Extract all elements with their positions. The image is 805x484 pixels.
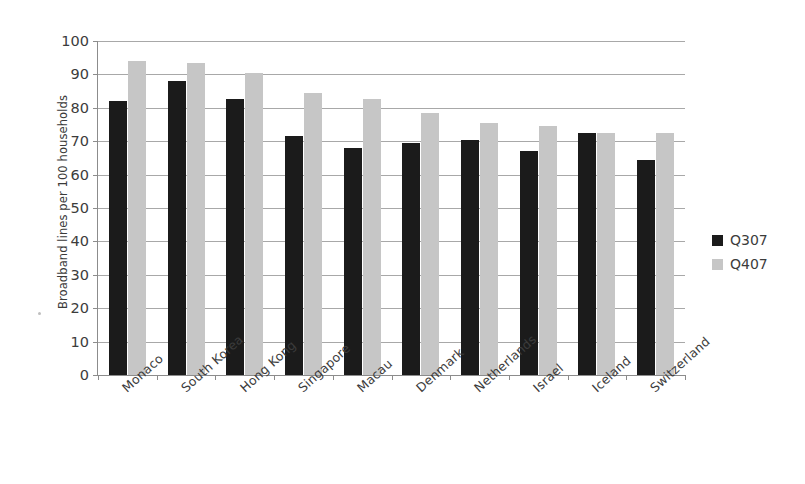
x-tick-mark [685, 375, 686, 380]
bar-chart-figure: Broadband lines per 100 households 10090… [0, 0, 805, 484]
bar-group [215, 41, 274, 375]
x-tick-mark [509, 375, 510, 380]
y-tick-label-70: 70 [71, 134, 89, 149]
y-tick-label-60: 60 [71, 167, 89, 182]
bar-q407 [421, 113, 439, 375]
legend-label: Q307 [730, 233, 768, 247]
x-tick-mark [98, 375, 99, 380]
x-tick-mark [450, 375, 451, 380]
x-tick-mark [274, 375, 275, 380]
x-tick-mark [626, 375, 627, 380]
bar-q407 [304, 93, 322, 375]
bar-q307 [344, 148, 362, 375]
y-tick-label-90: 90 [71, 67, 89, 82]
bar-group [568, 41, 627, 375]
bar-q307 [109, 101, 127, 375]
bar-q407 [245, 73, 263, 375]
legend-label: Q407 [730, 257, 768, 271]
bar-q407 [363, 99, 381, 375]
bar-q407 [656, 133, 674, 375]
bar-q307 [402, 143, 420, 375]
bar-group [392, 41, 451, 375]
y-tick-label-50: 50 [71, 201, 89, 216]
chart-legend: Q307Q407 [712, 228, 768, 276]
plot-area: 1009080706050403020100 [98, 41, 685, 375]
bar-q407 [128, 61, 146, 375]
x-tick-mark [333, 375, 334, 380]
bar-group [450, 41, 509, 375]
bar-q407 [480, 123, 498, 375]
y-tick-label-100: 100 [61, 34, 89, 49]
x-tick-mark [215, 375, 216, 380]
bar-q307 [461, 140, 479, 375]
bar-group [626, 41, 685, 375]
bar-q407 [539, 126, 557, 375]
x-tick-mark [157, 375, 158, 380]
bar-q307 [637, 160, 655, 375]
y-tick-label-40: 40 [71, 234, 89, 249]
legend-item-q407[interactable]: Q407 [712, 252, 768, 276]
y-tick-label-10: 10 [71, 334, 89, 349]
legend-swatch-icon [712, 259, 723, 270]
legend-item-q307[interactable]: Q307 [712, 228, 768, 252]
y-tick-label-80: 80 [71, 101, 89, 116]
bar-q307 [578, 133, 596, 375]
x-tick-mark [392, 375, 393, 380]
bar-q307 [168, 81, 186, 375]
bar-group [274, 41, 333, 375]
bar-group [98, 41, 157, 375]
bar-q407 [597, 133, 615, 375]
y-tick-label-0: 0 [80, 368, 89, 383]
legend-swatch-icon [712, 235, 723, 246]
bar-group [157, 41, 216, 375]
y-axis-title: Broadband lines per 100 households [56, 72, 70, 332]
scan-artifact-speck [38, 312, 41, 315]
bar-group [333, 41, 392, 375]
y-tick-label-30: 30 [71, 268, 89, 283]
x-tick-mark [568, 375, 569, 380]
y-tick-label-20: 20 [71, 301, 89, 316]
bar-group [509, 41, 568, 375]
bar-q407 [187, 63, 205, 375]
